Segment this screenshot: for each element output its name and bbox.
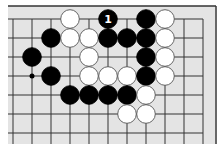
go-board-diagram: 1 <box>0 0 222 152</box>
black-stone-icon <box>80 86 99 105</box>
white-stone-icon <box>118 105 137 124</box>
black-stone <box>137 67 156 86</box>
white-stone-icon <box>61 29 80 48</box>
white-stone-icon <box>80 48 99 67</box>
white-stone <box>156 29 175 48</box>
white-stone-icon <box>61 10 80 29</box>
black-stone <box>99 29 118 48</box>
black-stone <box>42 67 61 86</box>
black-stone-icon <box>137 48 156 67</box>
small-dot-marker-icon <box>30 74 35 79</box>
black-stone-icon <box>23 48 42 67</box>
black-stone <box>61 86 80 105</box>
move-number-label: 1 <box>104 13 112 26</box>
black-stone <box>118 86 137 105</box>
white-stone <box>80 29 99 48</box>
white-stone-icon <box>80 29 99 48</box>
white-stone <box>156 10 175 29</box>
white-stone-icon <box>99 67 118 86</box>
white-stone <box>156 48 175 67</box>
white-stone <box>61 29 80 48</box>
black-stone <box>23 48 42 67</box>
black-stone-icon <box>118 29 137 48</box>
board-markers <box>30 74 35 79</box>
white-stone-icon <box>80 67 99 86</box>
white-stone <box>99 67 118 86</box>
white-stone <box>137 105 156 124</box>
black-stone <box>42 29 61 48</box>
white-stone <box>80 67 99 86</box>
black-stone-icon <box>137 29 156 48</box>
white-stone <box>118 67 137 86</box>
black-stone: 1 <box>99 10 118 29</box>
black-stone <box>137 29 156 48</box>
black-stone <box>137 10 156 29</box>
black-stone-icon <box>61 86 80 105</box>
black-stone <box>137 48 156 67</box>
black-stone <box>99 86 118 105</box>
black-stone-icon <box>137 67 156 86</box>
white-stone-icon <box>118 67 137 86</box>
black-stone-icon <box>137 10 156 29</box>
white-stone-icon <box>137 86 156 105</box>
white-stone <box>118 105 137 124</box>
black-stone-icon <box>99 29 118 48</box>
white-stone <box>137 86 156 105</box>
black-stone <box>118 29 137 48</box>
black-stone-icon <box>118 86 137 105</box>
black-stone <box>80 86 99 105</box>
white-stone <box>61 10 80 29</box>
black-stone-icon <box>99 86 118 105</box>
black-stone-icon <box>42 29 61 48</box>
white-stone-icon <box>156 67 175 86</box>
white-stone-icon <box>156 29 175 48</box>
white-stone <box>156 67 175 86</box>
white-stone-icon <box>156 10 175 29</box>
black-stone-icon <box>42 67 61 86</box>
white-stone-icon <box>137 105 156 124</box>
white-stone-icon <box>156 48 175 67</box>
white-stone <box>80 48 99 67</box>
